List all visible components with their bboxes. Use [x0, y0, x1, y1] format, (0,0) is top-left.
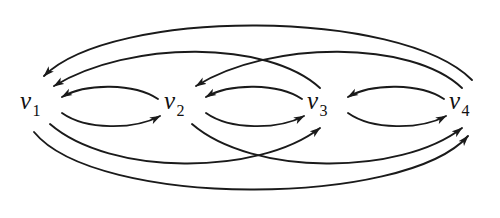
vertex-label-v3: v3	[307, 88, 328, 119]
edge-v4-to-v2	[196, 52, 462, 88]
vertex-v3-base: v	[307, 87, 318, 114]
directed-graph-figure: v1 v2 v3 v4	[0, 0, 500, 218]
edge-layer	[34, 25, 472, 189]
vertex-v4-subscript: 4	[460, 102, 470, 119]
vertex-v3-subscript: 3	[318, 102, 328, 119]
vertex-v2-subscript: 2	[175, 102, 185, 119]
edge-v1-to-v2	[62, 113, 160, 126]
edge-v3-to-v2	[206, 87, 302, 99]
edge-v2-to-v4	[192, 124, 462, 164]
vertex-v1-subscript: 1	[31, 102, 41, 119]
vertex-label-v4: v4	[449, 88, 470, 119]
vertex-v2-base: v	[164, 87, 175, 114]
edge-v1-to-v3	[50, 124, 320, 164]
vertex-v4-base: v	[449, 87, 460, 114]
edge-v1-to-v4	[34, 132, 468, 190]
edge-v2-to-v1	[62, 87, 158, 99]
edge-v2-to-v3	[206, 113, 304, 126]
vertex-label-v1: v1	[20, 88, 41, 119]
edge-v4-to-v1	[44, 25, 472, 80]
vertex-label-v2: v2	[164, 88, 185, 119]
edge-v4-to-v3	[348, 87, 444, 99]
graph-canvas	[0, 0, 500, 218]
vertex-v1-base: v	[20, 87, 31, 114]
edge-v3-to-v4	[348, 113, 446, 126]
